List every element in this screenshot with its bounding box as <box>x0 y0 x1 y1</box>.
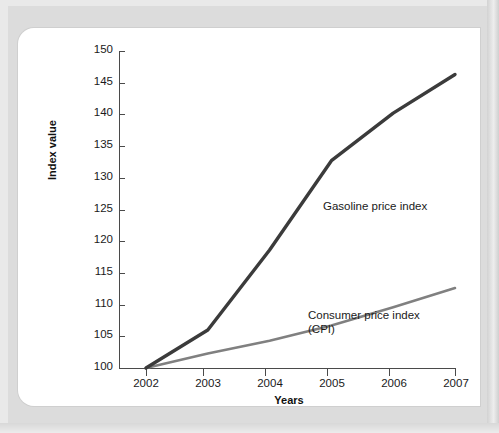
figure-card: 150 145 140 135 130 125 <box>18 28 480 406</box>
line-chart: 150 145 140 135 130 125 <box>18 28 480 406</box>
series-label-gasoline: Gasoline price index <box>323 200 427 214</box>
figure-screenshot: 150 145 140 135 130 125 <box>0 0 499 433</box>
series-label-cpi: Consumer price index(CPI) <box>308 309 420 336</box>
series-label-cpi-line1: Consumer price index <box>308 309 420 321</box>
series-label-cpi-line2: (CPI) <box>308 323 335 335</box>
page-edge-bottom <box>0 423 499 433</box>
series-layer <box>18 28 480 406</box>
page-edge-right <box>487 0 499 433</box>
